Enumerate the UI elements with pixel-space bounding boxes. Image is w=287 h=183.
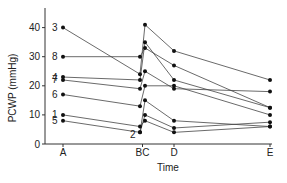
data-point — [172, 130, 176, 134]
data-point — [61, 113, 65, 117]
series-label-7: 7 — [52, 74, 58, 85]
data-point — [138, 87, 142, 91]
y-tick-label: 10 — [29, 109, 41, 120]
data-point — [138, 104, 142, 108]
data-point — [268, 120, 272, 124]
data-point — [143, 113, 147, 117]
series-label-5: 5 — [52, 115, 58, 126]
data-point — [143, 119, 147, 123]
x-tick-label: BC — [136, 147, 150, 158]
pcwp-line-chart: 010203040ABCDE 12345678 Time PCWP (mmHg) — [0, 0, 287, 183]
data-point — [143, 40, 147, 44]
x-axis-title: Time — [157, 162, 179, 173]
data-point — [143, 69, 147, 73]
data-point — [61, 119, 65, 123]
series-label-3: 3 — [52, 22, 58, 33]
data-point — [143, 23, 147, 27]
series-labels: 12345678 — [52, 22, 136, 140]
data-point — [143, 46, 147, 50]
data-point — [268, 113, 272, 117]
series-line-1 — [63, 115, 270, 132]
x-tick-label: E — [267, 147, 274, 158]
data-point — [138, 72, 142, 76]
series-line-4 — [63, 42, 270, 107]
x-tick-label: A — [60, 147, 67, 158]
data-point — [172, 119, 176, 123]
data-point — [172, 63, 176, 67]
data-point — [138, 125, 142, 129]
y-tick-label: 20 — [29, 80, 41, 91]
data-point — [172, 49, 176, 53]
series-label-2: 2 — [130, 129, 136, 140]
data-point — [138, 130, 142, 134]
data-point — [143, 84, 147, 88]
series-label-8: 8 — [52, 51, 58, 62]
data-point — [61, 78, 65, 82]
data-point — [61, 93, 65, 97]
series-line-6 — [63, 86, 270, 115]
data-point — [172, 126, 176, 130]
data-point — [61, 26, 65, 30]
series-lines — [63, 25, 270, 133]
y-axis-title: PCWP (mmHg) — [7, 54, 18, 123]
data-point — [143, 98, 147, 102]
series-line-7 — [63, 71, 270, 91]
series-label-6: 6 — [52, 89, 58, 100]
y-tick-label: 40 — [29, 22, 41, 33]
y-tick-label: 30 — [29, 51, 41, 62]
data-point — [172, 78, 176, 82]
data-point — [268, 78, 272, 82]
data-point — [268, 90, 272, 94]
data-point — [138, 78, 142, 82]
data-point — [172, 87, 176, 91]
series-line-2 — [140, 115, 270, 132]
series-line-3 — [63, 25, 270, 80]
x-tick-label: D — [170, 147, 177, 158]
y-tick-label: 0 — [34, 139, 40, 150]
data-point — [268, 106, 272, 110]
data-point — [61, 55, 65, 59]
data-point — [268, 125, 272, 129]
data-point — [138, 55, 142, 59]
